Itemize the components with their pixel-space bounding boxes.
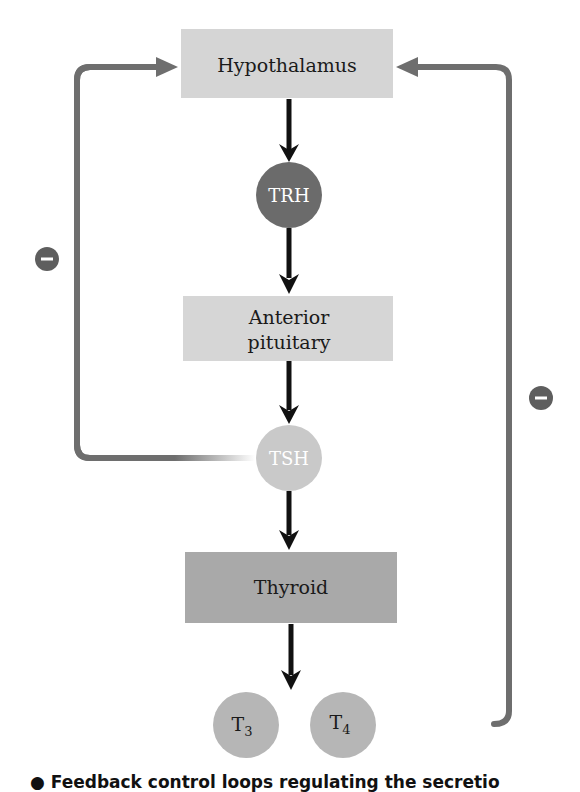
feedback-loop-right [377, 57, 509, 724]
arrowhead-right-feedback-icon [396, 57, 418, 77]
node-tsh: TSH [256, 425, 322, 491]
node-trh: TRH [256, 162, 322, 228]
anterior-pituitary-label-line2: pituitary [248, 331, 331, 353]
feedback-diagram: Hypothalamus TRH Anterior pituitary TSH … [0, 0, 580, 792]
arrowhead-left-feedback-icon [156, 57, 178, 77]
minus-sign-left-icon [35, 247, 59, 271]
node-t3: T3 [213, 692, 279, 758]
minus-sign-right-icon [529, 386, 553, 410]
thyroid-label: Thyroid [254, 576, 328, 598]
feedback-loop-left [77, 57, 255, 458]
anterior-pituitary-label-line1: Anterior [248, 306, 330, 328]
node-t4: T4 [310, 692, 376, 758]
node-thyroid: Thyroid [185, 552, 397, 623]
tsh-label: TSH [269, 448, 309, 469]
node-anterior-pituitary: Anterior pituitary [183, 296, 393, 361]
hypothalamus-label: Hypothalamus [217, 54, 357, 76]
trh-label: TRH [268, 185, 309, 206]
figure-caption: ● Feedback control loops regulating the … [30, 772, 580, 792]
node-hypothalamus: Hypothalamus [181, 29, 393, 98]
